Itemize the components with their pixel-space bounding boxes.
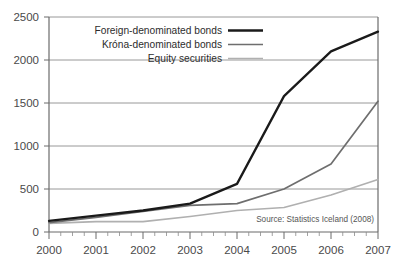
series-line-krona-denominated-bonds: [49, 101, 378, 222]
x-tick-label-2004: 2004: [224, 244, 250, 256]
y-tick-label-2500: 2500: [13, 11, 39, 23]
x-tick-label-2001: 2001: [83, 244, 109, 256]
x-tick-label-2005: 2005: [271, 244, 297, 256]
y-tick-label-1000: 1000: [13, 140, 39, 152]
y-tick-label-500: 500: [20, 183, 39, 195]
x-tick-label-2003: 2003: [177, 244, 203, 256]
x-tick-label-2006: 2006: [318, 244, 344, 256]
y-tick-label-1500: 1500: [13, 97, 39, 109]
chart-figure: 2500 2000 1500 1000 500 0 2000 2001 2002…: [0, 0, 403, 271]
x-tick-label-2002: 2002: [130, 244, 156, 256]
legend: Foreign-denominated bonds Króna-denomina…: [95, 25, 263, 64]
x-axis-tick-labels: 2000 2001 2002 2003 2004 2005 2006 2007: [36, 244, 391, 256]
y-axis-tick-labels: 2500 2000 1500 1000 500 0: [13, 11, 39, 238]
line-chart: 2500 2000 1500 1000 500 0 2000 2001 2002…: [0, 0, 403, 271]
source-note: Source: Statistics Iceland (2008): [256, 215, 374, 224]
y-tick-label-0: 0: [33, 226, 39, 238]
legend-label-krona-denominated-bonds: Króna-denominated bonds: [102, 39, 222, 50]
legend-label-foreign-denominated-bonds: Foreign-denominated bonds: [95, 25, 222, 36]
legend-label-equity-securities: Equity securities: [148, 53, 222, 64]
x-tick-label-2007: 2007: [365, 244, 391, 256]
y-tick-marks: [44, 17, 49, 232]
x-tick-label-2000: 2000: [36, 244, 62, 256]
x-tick-marks: [49, 232, 378, 239]
y-tick-label-2000: 2000: [13, 54, 39, 66]
